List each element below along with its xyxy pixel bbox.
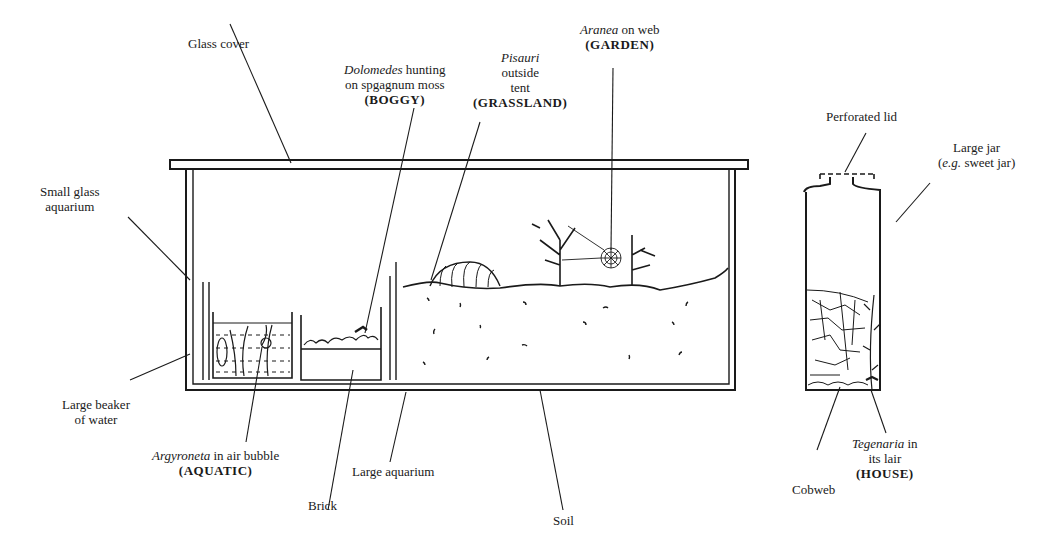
soil-text: Soil	[553, 513, 574, 528]
tegenaria-desc1: in	[904, 436, 917, 451]
aranea-desc: on web	[618, 22, 659, 37]
tegenaria-species: Tegenaria	[852, 436, 904, 451]
tegenaria-habitat: (HOUSE)	[856, 466, 914, 481]
argyroneta-desc: in air bubble	[210, 448, 279, 463]
label-argyroneta: Argyroneta in air bubble (AQUATIC)	[152, 448, 279, 478]
cobweb-text: Cobweb	[792, 482, 835, 497]
dolomedes-species: Dolomedes	[344, 62, 403, 77]
large-aquarium-text: Large aquarium	[352, 464, 434, 479]
label-large-beaker: Large beaker of water	[62, 397, 130, 427]
perforated-lid	[820, 174, 874, 182]
pisauri-habitat: (GRASSLAND)	[473, 95, 567, 110]
dolomedes-habitat: (BOGGY)	[364, 92, 425, 107]
large-jar-line2: sweet jar)	[961, 155, 1015, 170]
small-aquarium-line2: aquarium	[40, 199, 100, 214]
label-glass-cover: Glass cover	[188, 36, 249, 51]
pisauri-desc2: tent	[473, 80, 567, 95]
label-dolomedes: Dolomedes hunting on spgagnum moss (BOGG…	[344, 62, 445, 107]
cobweb	[807, 290, 868, 375]
large-beaker-line1: Large beaker	[62, 397, 130, 412]
aranea-web	[562, 226, 621, 268]
soil-specks	[423, 298, 688, 365]
label-brick: Brick	[308, 498, 337, 513]
jar-plant	[863, 295, 880, 390]
pisauri-species: Pisauri	[501, 50, 539, 65]
small-aquarium-line1: Small glass	[40, 184, 100, 199]
label-soil: Soil	[553, 513, 574, 528]
aquatic-plants	[217, 325, 272, 376]
label-cobweb: Cobweb	[792, 482, 835, 497]
label-aranea: Aranea on web (GARDEN)	[580, 22, 659, 52]
sphagnum-moss	[304, 335, 378, 345]
label-small-aquarium: Small glass aquarium	[40, 184, 100, 214]
label-perforated-lid: Perforated lid	[826, 109, 897, 124]
perforated-lid-text: Perforated lid	[826, 109, 897, 124]
twigs	[532, 220, 655, 286]
large-beaker-line2: of water	[62, 412, 130, 427]
large-aquarium	[186, 170, 735, 390]
glass-cover-text: Glass cover	[188, 36, 249, 51]
aranea-habitat: (GARDEN)	[585, 37, 654, 52]
pisauri-desc1: outside	[473, 65, 567, 80]
large-beaker	[213, 312, 292, 378]
large-jar-line1: Large jar	[938, 140, 1015, 155]
large-jar-eg: e.g.	[942, 155, 961, 170]
label-large-aquarium: Large aquarium	[352, 464, 434, 479]
brick-text: Brick	[308, 498, 337, 513]
small-aquarium	[203, 262, 396, 380]
dolomedes-desc1: hunting	[403, 62, 446, 77]
dolomedes-desc2: on spgagnum moss	[344, 77, 445, 92]
aranea-species: Aranea	[580, 22, 618, 37]
label-tegenaria: Tegenaria in its lair (HOUSE)	[852, 436, 918, 481]
large-jar	[804, 177, 880, 390]
glass-cover	[170, 160, 748, 169]
argyroneta-habitat: (AQUATIC)	[179, 463, 253, 478]
label-large-jar: Large jar (e.g. sweet jar)	[938, 140, 1015, 170]
argyroneta-species: Argyroneta	[152, 448, 210, 463]
label-pisauri: Pisauri outside tent (GRASSLAND)	[473, 50, 567, 110]
tegenaria-desc2: its lair	[852, 451, 918, 466]
brick-container	[301, 307, 381, 380]
